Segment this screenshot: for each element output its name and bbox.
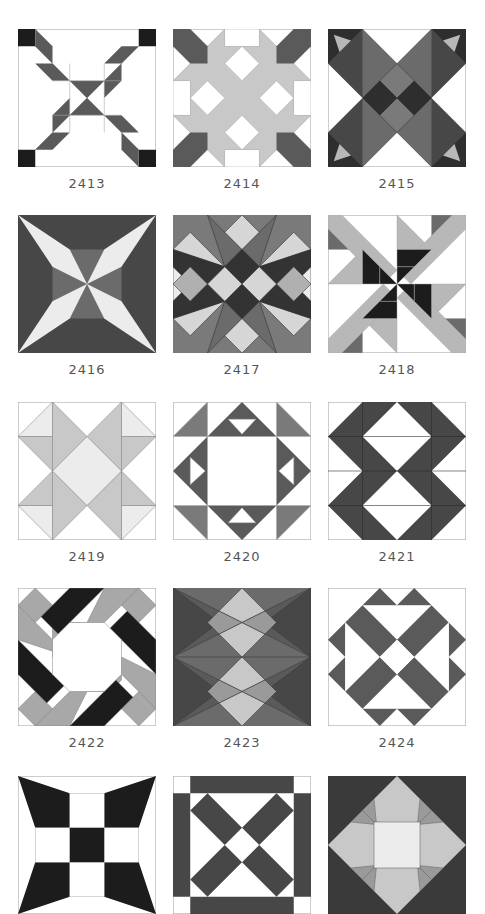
quilt-block-2424-icon xyxy=(328,588,466,726)
quilt-block-2424 xyxy=(328,588,466,726)
block-number-label: 2420 xyxy=(173,549,311,564)
block-number-label: 2413 xyxy=(18,176,156,191)
quilt-block-2422-icon xyxy=(18,588,156,726)
block-number-label: 2417 xyxy=(173,362,311,377)
quilt-block-2426 xyxy=(173,776,311,914)
block-number-label: 2418 xyxy=(328,362,466,377)
block-number-label: 2423 xyxy=(173,735,311,750)
quilt-block-2418-icon xyxy=(328,215,466,353)
block-number-label: 2422 xyxy=(18,735,156,750)
quilt-block-2413 xyxy=(18,29,156,167)
block-number-label: 2424 xyxy=(328,735,466,750)
quilt-block-2419 xyxy=(18,402,156,540)
quilt-block-2415-icon xyxy=(328,29,466,167)
quilt-block-2414 xyxy=(173,29,311,167)
quilt-block-2418 xyxy=(328,215,466,353)
quilt-block-2427 xyxy=(328,776,466,914)
quilt-block-2416 xyxy=(18,215,156,353)
block-number-label: 2416 xyxy=(18,362,156,377)
block-number-label: 2414 xyxy=(173,176,311,191)
quilt-block-2427-icon xyxy=(328,776,466,914)
quilt-block-2417 xyxy=(173,215,311,353)
block-number-label: 2419 xyxy=(18,549,156,564)
quilt-block-2422 xyxy=(18,588,156,726)
block-number-label: 2415 xyxy=(328,176,466,191)
block-number-label: 2421 xyxy=(328,549,466,564)
quilt-block-2419-icon xyxy=(18,402,156,540)
quilt-block-2423-icon xyxy=(173,588,311,726)
quilt-block-2423 xyxy=(173,588,311,726)
quilt-block-2425-icon xyxy=(18,776,156,914)
quilt-block-2425 xyxy=(18,776,156,914)
quilt-block-2420 xyxy=(173,402,311,540)
quilt-block-2415 xyxy=(328,29,466,167)
quilt-block-2426-icon xyxy=(173,776,311,914)
quilt-block-2414-icon xyxy=(173,29,311,167)
quilt-block-2421-icon xyxy=(328,402,466,540)
quilt-block-2413-icon xyxy=(18,29,156,167)
quilt-block-2417-icon xyxy=(173,215,311,353)
quilt-block-2420-icon xyxy=(173,402,311,540)
quilt-block-2416-icon xyxy=(18,215,156,353)
quilt-block-2421 xyxy=(328,402,466,540)
